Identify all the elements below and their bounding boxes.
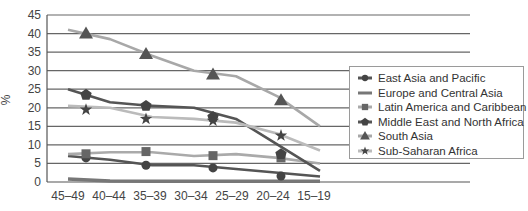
svg-text:40: 40 — [28, 27, 42, 41]
line-icon — [356, 87, 374, 99]
svg-text:20–24: 20–24 — [256, 189, 290, 203]
legend-label: South Asia — [378, 130, 433, 142]
svg-text:35: 35 — [28, 45, 42, 59]
svg-text:45: 45 — [28, 8, 42, 22]
star-marker-icon — [356, 145, 374, 157]
x-axis: 45–4940–4435–3930–3425–2920–2415–19 — [51, 189, 331, 203]
square-marker-icon — [356, 101, 374, 113]
svg-text:40–44: 40–44 — [92, 189, 126, 203]
svg-text:30: 30 — [28, 64, 42, 78]
legend-label: East Asia and Pacific — [378, 72, 485, 84]
legend-item: Middle East and North Africa — [356, 115, 523, 130]
legend-label: Sub-Saharan Africa — [378, 145, 478, 157]
svg-text:15: 15 — [28, 119, 42, 133]
svg-text:35–39: 35–39 — [133, 189, 167, 203]
legend-item: Sub-Saharan Africa — [356, 144, 523, 159]
legend-item: Europe and Central Asia — [356, 86, 523, 101]
legend-label: Latin America and Caribbean — [378, 101, 526, 113]
svg-text:15–19: 15–19 — [297, 189, 331, 203]
legend-label: Europe and Central Asia — [378, 87, 503, 99]
legend-label: Middle East and North Africa — [378, 116, 524, 128]
pentagon-marker-icon — [356, 116, 374, 128]
svg-text:5: 5 — [34, 156, 41, 170]
svg-text:0: 0 — [34, 175, 41, 189]
svg-text:30–34: 30–34 — [174, 189, 208, 203]
circle-marker-icon — [356, 72, 374, 84]
y-axis-label: % — [0, 94, 13, 105]
legend: East Asia and Pacific Europe and Central… — [349, 66, 524, 159]
svg-text:45–49: 45–49 — [51, 189, 85, 203]
series-markers — [79, 27, 288, 181]
legend-item: South Asia — [356, 129, 523, 144]
triangle-marker-icon — [356, 130, 374, 142]
svg-text:25–29: 25–29 — [215, 189, 249, 203]
svg-text:25: 25 — [28, 82, 42, 96]
svg-text:10: 10 — [28, 138, 42, 152]
legend-item: Latin America and Caribbean — [356, 100, 523, 115]
y-axis: 051015202530354045 — [28, 8, 47, 189]
legend-item: East Asia and Pacific — [356, 71, 523, 86]
svg-text:20: 20 — [28, 101, 42, 115]
